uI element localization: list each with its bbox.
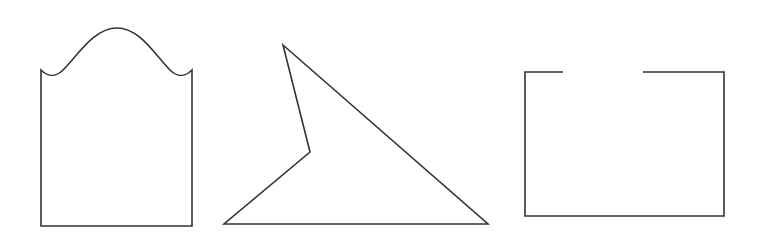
rectangle-with-top-gap-shape — [525, 72, 724, 216]
curved-top-rectangle-shape — [41, 28, 192, 226]
shapes-svg — [0, 0, 759, 237]
figure-canvas — [0, 0, 759, 237]
concave-arrow-quadrilateral-shape — [224, 45, 488, 224]
